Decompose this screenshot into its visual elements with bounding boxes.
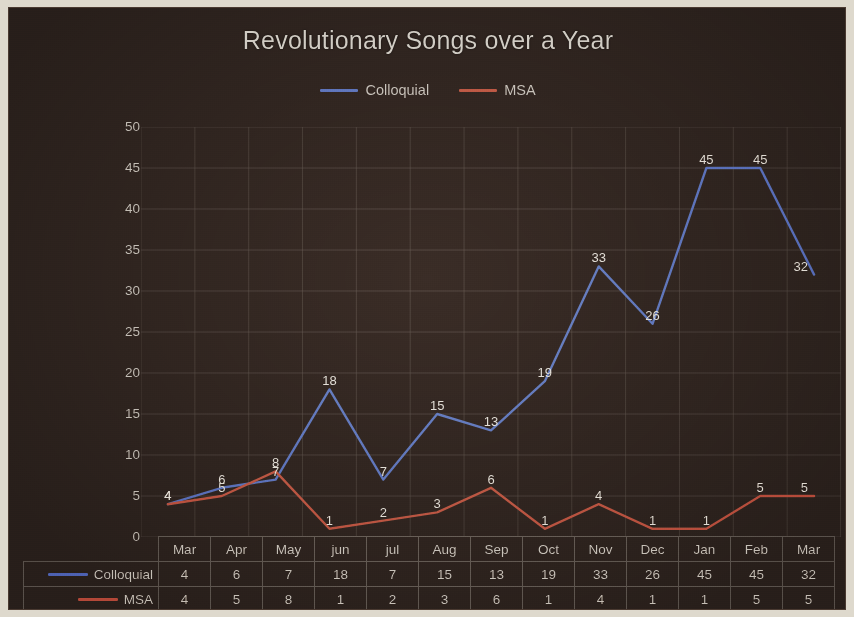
table-cell: 2 (367, 587, 419, 611)
data-label: 4 (595, 488, 602, 503)
table-cell: 26 (627, 562, 679, 587)
table-cell: 13 (471, 562, 523, 587)
column-header-9: Dec (627, 537, 679, 562)
column-header-10: Jan (679, 537, 731, 562)
legend-swatch-icon (459, 89, 497, 92)
series-swatch-icon (48, 573, 88, 576)
y-tick-label-35: 35 (104, 243, 140, 257)
column-header-4: jul (367, 537, 419, 562)
data-label: 45 (753, 152, 767, 167)
table-cell: 15 (419, 562, 471, 587)
y-tick-label-15: 15 (104, 407, 140, 421)
table-cell: 5 (211, 587, 263, 611)
legend-item-colloquial[interactable]: Colloquial (320, 82, 429, 98)
table-cell: 3 (419, 587, 471, 611)
data-label: 19 (538, 365, 552, 380)
data-label: 7 (380, 464, 387, 479)
data-label: 13 (484, 414, 498, 429)
chart-title: Revolutionary Songs over a Year (9, 26, 846, 55)
row-header-colloquial: Colloquial (24, 562, 159, 587)
y-tick-label-10: 10 (104, 448, 140, 462)
column-header-3: jun (315, 537, 367, 562)
table-cell: 5 (731, 587, 783, 611)
line-chart-svg: 46718715131933264545324581236141155 (141, 127, 841, 537)
chart-container: Revolutionary Songs over a Year Colloqui… (8, 7, 846, 610)
y-tick-label-40: 40 (104, 202, 140, 216)
data-label: 4 (164, 488, 171, 503)
table-row: Colloquial4671871513193326454532 (24, 562, 835, 587)
data-label: 1 (649, 513, 656, 528)
data-label: 32 (794, 259, 808, 274)
legend-label: Colloquial (365, 82, 429, 98)
table-cell: 1 (627, 587, 679, 611)
table-cell: 18 (315, 562, 367, 587)
table-row: MSA4581236141155 (24, 587, 835, 611)
data-label: 5 (218, 480, 225, 495)
y-tick-label-5: 5 (104, 489, 140, 503)
y-axis-tick-labels: 50454035302520151050 (104, 127, 140, 537)
table-cell: 33 (575, 562, 627, 587)
row-header-msa: MSA (24, 587, 159, 611)
data-label: 1 (703, 513, 710, 528)
data-label: 3 (434, 496, 441, 511)
table-cell: 4 (159, 587, 211, 611)
data-table-body: Colloquial4671871513193326454532MSA45812… (24, 562, 835, 611)
column-header-11: Feb (731, 537, 783, 562)
column-header-0: Mar (159, 537, 211, 562)
legend-label: MSA (504, 82, 535, 98)
series-name-label: MSA (124, 592, 153, 607)
data-table-corner (24, 537, 159, 562)
table-cell: 4 (159, 562, 211, 587)
table-row: MarAprMayjunjulAugSepOctNovDecJanFebMar (24, 537, 835, 562)
series-swatch-icon (78, 598, 118, 601)
table-cell: 1 (315, 587, 367, 611)
screenshot-canvas: Revolutionary Songs over a Year Colloqui… (0, 0, 854, 617)
column-header-5: Aug (419, 537, 471, 562)
data-label: 2 (380, 505, 387, 520)
data-label: 8 (272, 455, 279, 470)
series-data-labels: 46718715131933264545324581236141155 (164, 152, 808, 528)
chart-legend: ColloquialMSA (9, 82, 846, 98)
table-cell: 1 (523, 587, 575, 611)
data-label: 5 (801, 480, 808, 495)
y-tick-label-30: 30 (104, 284, 140, 298)
y-tick-label-45: 45 (104, 161, 140, 175)
y-tick-label-20: 20 (104, 366, 140, 380)
legend-item-msa[interactable]: MSA (459, 82, 535, 98)
column-header-12: Mar (783, 537, 835, 562)
table-cell: 45 (679, 562, 731, 587)
data-label: 33 (591, 250, 605, 265)
data-label: 1 (541, 513, 548, 528)
data-label: 45 (699, 152, 713, 167)
table-cell: 19 (523, 562, 575, 587)
data-label: 5 (757, 480, 764, 495)
table-cell: 32 (783, 562, 835, 587)
column-header-1: Apr (211, 537, 263, 562)
data-table-header: MarAprMayjunjulAugSepOctNovDecJanFebMar (24, 537, 835, 562)
column-header-2: May (263, 537, 315, 562)
table-cell: 45 (731, 562, 783, 587)
table-cell: 6 (471, 587, 523, 611)
plot-area: 46718715131933264545324581236141155 (141, 127, 841, 537)
table-cell: 5 (783, 587, 835, 611)
table-cell: 1 (679, 587, 731, 611)
table-cell: 8 (263, 587, 315, 611)
column-header-8: Nov (575, 537, 627, 562)
column-header-6: Sep (471, 537, 523, 562)
data-label: 6 (487, 472, 494, 487)
table-cell: 6 (211, 562, 263, 587)
series-name-label: Colloquial (94, 567, 153, 582)
data-label: 1 (326, 513, 333, 528)
y-tick-label-50: 50 (104, 120, 140, 134)
series-line-colloquial[interactable] (168, 168, 814, 504)
table-cell: 7 (367, 562, 419, 587)
table-cell: 7 (263, 562, 315, 587)
y-tick-label-25: 25 (104, 325, 140, 339)
column-header-7: Oct (523, 537, 575, 562)
legend-swatch-icon (320, 89, 358, 92)
chart-data-table: MarAprMayjunjulAugSepOctNovDecJanFebMar … (23, 536, 835, 610)
data-label: 26 (645, 308, 659, 323)
table-cell: 4 (575, 587, 627, 611)
data-label: 18 (322, 373, 336, 388)
data-label: 15 (430, 398, 444, 413)
